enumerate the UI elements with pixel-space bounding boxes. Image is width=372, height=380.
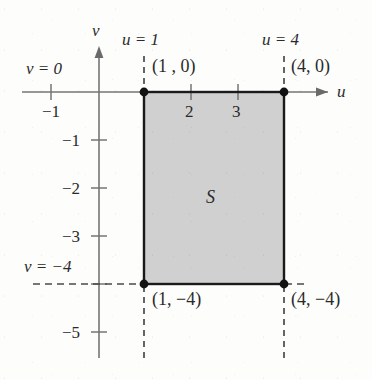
u-tick-label-3: 3 xyxy=(232,103,241,120)
label-v-equals-0: v = 0 xyxy=(26,60,62,77)
v-tick-label--3: −3 xyxy=(62,228,80,245)
corner-dot-bottom-right xyxy=(280,280,289,289)
u-axis-label: u xyxy=(337,83,346,100)
label-v-equals-neg4: v = −4 xyxy=(24,258,72,275)
coord-label-bottom-right: (4, −4) xyxy=(291,290,340,308)
coord-label-top-right: (4, 0) xyxy=(291,57,330,75)
v-tick-label--2: −2 xyxy=(62,180,80,197)
u-axis-arrowhead xyxy=(316,88,328,97)
v-tick-label--1: −1 xyxy=(62,132,80,149)
u-tick-label-2: 2 xyxy=(185,103,194,120)
u-tick-label--1: −1 xyxy=(42,103,60,120)
corner-dot-top-left xyxy=(140,88,149,97)
corner-dot-top-right xyxy=(280,88,289,97)
coord-label-top-left: (1 , 0) xyxy=(152,57,196,75)
corner-dot-bottom-left xyxy=(140,280,149,289)
label-u-equals-4: u = 4 xyxy=(262,31,299,48)
uv-plane-diagram: v u v = 0 v = −4 u = 1 u = 4 (1 , 0) (4,… xyxy=(0,0,372,380)
v-axis-label: v xyxy=(92,22,100,39)
label-u-equals-1: u = 1 xyxy=(122,31,159,48)
coord-label-bottom-left: (1, −4) xyxy=(152,290,201,308)
v-axis-arrowhead xyxy=(95,46,104,58)
region-label-s: S xyxy=(206,188,215,206)
v-tick-label--5: −5 xyxy=(62,324,80,341)
